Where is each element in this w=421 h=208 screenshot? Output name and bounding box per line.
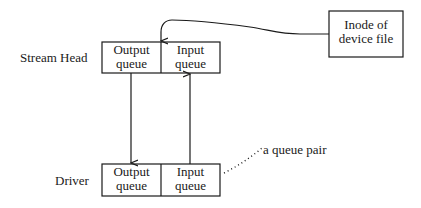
cell-line: Input bbox=[161, 43, 220, 57]
stream-head-input-queue: Input queue bbox=[161, 43, 220, 71]
driver-output-queue: Output queue bbox=[102, 165, 161, 193]
cell-line: Inode of bbox=[329, 18, 403, 32]
inode-box-text: Inode of device file bbox=[329, 18, 403, 46]
cell-line: Output bbox=[102, 165, 161, 179]
cell-line: device file bbox=[329, 32, 403, 46]
driver-label: Driver bbox=[55, 174, 89, 188]
cell-line: Output bbox=[102, 43, 161, 57]
cell-line: queue bbox=[161, 57, 220, 71]
queue-pair-label: a queue pair bbox=[263, 143, 327, 157]
cell-line: Input bbox=[161, 165, 220, 179]
stream-head-label: Stream Head bbox=[20, 51, 88, 65]
inode-to-stream-head-arrow bbox=[161, 20, 329, 41]
stream-head-output-queue: Output queue bbox=[102, 43, 161, 71]
driver-input-queue: Input queue bbox=[161, 165, 220, 193]
queue-pair-dotted-line bbox=[224, 148, 262, 173]
cell-line: queue bbox=[102, 57, 161, 71]
cell-line: queue bbox=[161, 179, 220, 193]
cell-line: queue bbox=[102, 179, 161, 193]
